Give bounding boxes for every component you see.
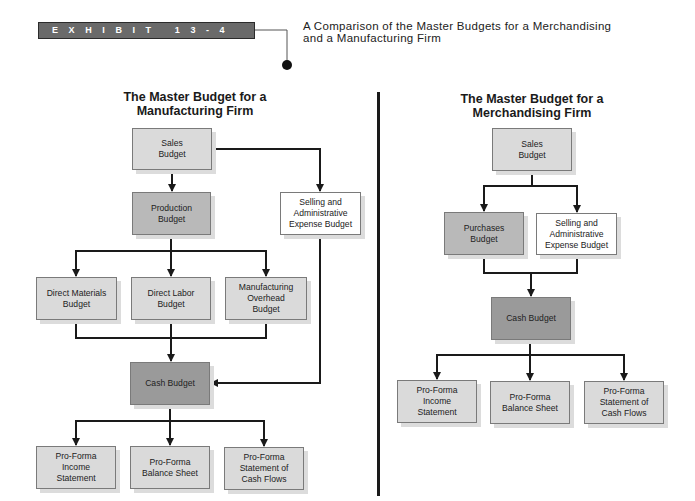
- mfg-cash-budget: Cash Budget: [130, 362, 210, 405]
- merch-selling-admin-budget: Selling andAdministrativeExpense Budget: [536, 213, 617, 255]
- manufacturing-title-line2: Manufacturing Firm: [100, 104, 290, 118]
- merch-purchases-budget: PurchasesBudget: [444, 212, 524, 255]
- section-divider: [377, 92, 380, 496]
- mfg-direct-materials-budget: Direct MaterialsBudget: [36, 277, 117, 320]
- mfg-overhead-budget: ManufacturingOverheadBudget: [225, 277, 307, 320]
- merchandising-title: The Master Budget for a Merchandising Fi…: [447, 92, 617, 120]
- mfg-sales-budget: SalesBudget: [132, 128, 212, 170]
- manufacturing-title-line1: The Master Budget for a: [100, 90, 290, 104]
- merch-pf-balance-sheet: Pro-FormaBalance Sheet: [490, 381, 570, 424]
- merch-cash-budget: Cash Budget: [491, 297, 571, 340]
- callout-dot-icon: [282, 60, 292, 70]
- merch-pf-cash-flows: Pro-FormaStatement ofCash Flows: [584, 381, 664, 424]
- mfg-selling-admin-budget: Selling andAdministrativeExpense Budget: [280, 192, 361, 235]
- mfg-pf-cash-flows: Pro-FormaStatement ofCash Flows: [224, 447, 304, 490]
- merch-sales-budget: SalesBudget: [492, 128, 572, 171]
- merchandising-title-line1: The Master Budget for a: [447, 92, 617, 106]
- merch-pf-income-statement: Pro-FormaIncomeStatement: [397, 380, 477, 423]
- merchandising-title-line2: Merchandising Firm: [447, 106, 617, 120]
- mfg-pf-income-statement: Pro-FormaIncomeStatement: [36, 446, 116, 489]
- mfg-pf-balance-sheet: Pro-FormaBalance Sheet: [130, 446, 210, 489]
- manufacturing-title: The Master Budget for a Manufacturing Fi…: [100, 90, 290, 118]
- mfg-direct-labor-budget: Direct LaborBudget: [131, 277, 211, 320]
- mfg-production-budget: ProductionBudget: [132, 192, 211, 235]
